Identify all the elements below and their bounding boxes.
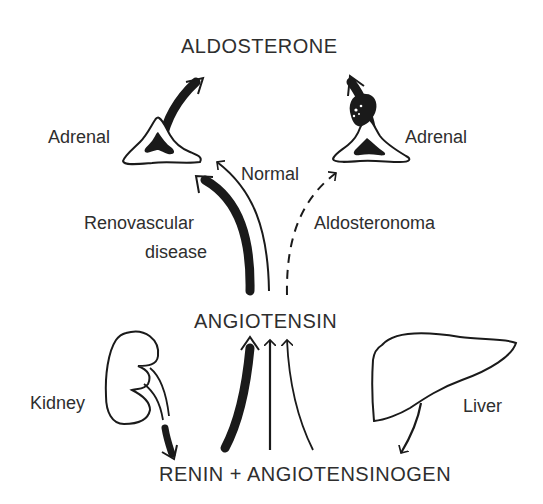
aldosteronoma-label: Aldosteronoma [314, 214, 435, 232]
left-adrenal-gland-icon [123, 118, 201, 165]
arrow-aldosteronoma-angiotensin-to-adrenal [287, 173, 336, 295]
renin-angiotensinogen-label: RENIN + ANGIOTENSINOGEN [159, 464, 451, 484]
liver-label: Liver [463, 397, 502, 415]
arrow-renovascular-renin-to-angiotensin [225, 337, 259, 448]
diagram-artwork [0, 0, 543, 504]
aldosterone-label: ALDOSTERONE [181, 36, 338, 56]
angiotensin-label: ANGIOTENSIN [194, 311, 337, 331]
renovascular-label-line2: disease [145, 243, 207, 261]
left-adrenal-label: Adrenal [48, 128, 110, 146]
arrow-aldosteronoma-renin-to-angiotensin [287, 340, 313, 450]
right-adrenal-gland-with-tumor-icon [333, 94, 409, 162]
right-adrenal-label: Adrenal [405, 128, 467, 146]
arrow-kidney-to-renin [162, 428, 177, 459]
normal-pathway-label: Normal [241, 165, 299, 183]
arrow-renovascular-angiotensin-to-adrenal [196, 176, 250, 291]
renovascular-label-line1: Renovascular [84, 214, 194, 232]
kidney-icon [106, 332, 169, 424]
kidney-label: Kidney [30, 394, 85, 412]
